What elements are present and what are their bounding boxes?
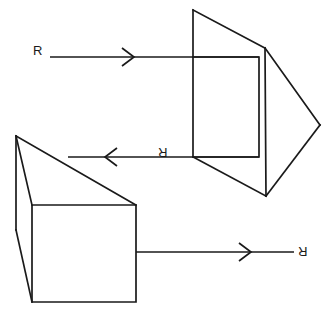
ray-label-bottom-right: R [298, 245, 307, 258]
figure-canvas: R R R [0, 0, 327, 318]
upper-prism-top-slant-edge [193, 10, 265, 48]
ray-label-middle: R [158, 146, 167, 159]
lower-prism-bottom-back-edge [16, 230, 32, 302]
lower-prism-face-group [32, 205, 136, 302]
lower-prism-front-face [32, 205, 136, 302]
ray-bottom-group [136, 243, 294, 261]
ray-top-group [50, 48, 259, 66]
upper-prism-bottom-slant-edge [193, 157, 266, 196]
upper-prism-lower-right-edge [266, 125, 320, 196]
lower-prism-left-slant-edge [16, 136, 32, 205]
upper-prism-group [193, 10, 320, 196]
upper-prism-right-vertical-edge [265, 48, 266, 196]
upper-prism-front-face [193, 57, 259, 157]
lower-prism-top-slant-edge [16, 136, 136, 205]
upper-prism-face-group [193, 57, 259, 157]
lower-prism-group [16, 136, 136, 302]
upper-prism-upper-right-edge [265, 48, 320, 125]
ray-label-top-left: R [33, 44, 42, 57]
